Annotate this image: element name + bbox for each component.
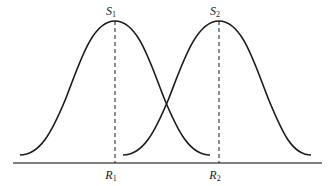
bell-curve-2 [123,21,311,155]
label-r1: R1 [104,168,116,183]
bell-curves-diagram: S1 S2 R1 R2 [0,0,333,186]
label-s2: S2 [210,4,220,19]
label-s1: S1 [106,4,116,19]
label-r2: R2 [208,168,220,183]
